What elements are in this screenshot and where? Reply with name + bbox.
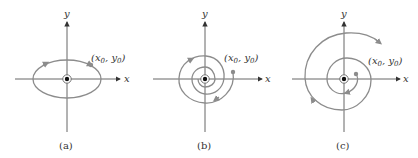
panel-c: x y (x0, y0) (c) <box>292 8 409 151</box>
initial-point-label: (x0, y0) <box>368 55 403 68</box>
panel-a: x y (x0, y0) (a) <box>15 8 130 151</box>
x-axis-label: x <box>403 73 409 84</box>
initial-point-label: (x0, y0) <box>91 52 126 65</box>
initial-point-label: (x0, y0) <box>224 52 259 65</box>
caption-b: (b) <box>197 140 211 151</box>
y-axis-label: y <box>201 8 208 19</box>
equilibrium-point <box>203 77 207 81</box>
initial-point <box>231 70 235 74</box>
direction-arrow <box>188 59 192 61</box>
spiral-trajectory <box>305 33 379 110</box>
direction-arrow <box>43 63 47 65</box>
equilibrium-point <box>65 77 69 81</box>
initial-point <box>354 72 358 76</box>
panel-b: x y (x0, y0) (b) <box>153 8 271 151</box>
phase-portrait-figure: x y (x0, y0) (a) x y (x0, y0) (b) x y <box>0 0 418 158</box>
x-axis-label: x <box>124 73 130 84</box>
direction-arrow <box>375 39 380 43</box>
caption-a: (a) <box>59 140 73 151</box>
equilibrium-point <box>342 77 346 81</box>
y-axis-label: y <box>340 8 347 19</box>
direction-arrow <box>346 92 349 93</box>
initial-point <box>89 63 93 67</box>
caption-c: (c) <box>336 140 350 151</box>
x-axis-label: x <box>265 73 271 84</box>
y-axis-label: y <box>63 8 70 19</box>
